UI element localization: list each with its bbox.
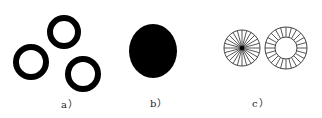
panel-c	[224, 27, 307, 69]
panel-b-label: b）	[150, 95, 168, 110]
panel-a-label: a）	[61, 96, 79, 111]
panel-c-label: c）	[252, 95, 270, 110]
ring-shape	[50, 18, 78, 46]
panel-a	[16, 18, 98, 89]
segmented-annulus-shape	[265, 27, 307, 69]
spoked-disc-shape	[224, 30, 260, 66]
filled-disc-shape	[129, 24, 177, 78]
panel-b	[129, 24, 177, 78]
ring-shape	[16, 47, 46, 77]
ring-shape	[68, 59, 98, 89]
